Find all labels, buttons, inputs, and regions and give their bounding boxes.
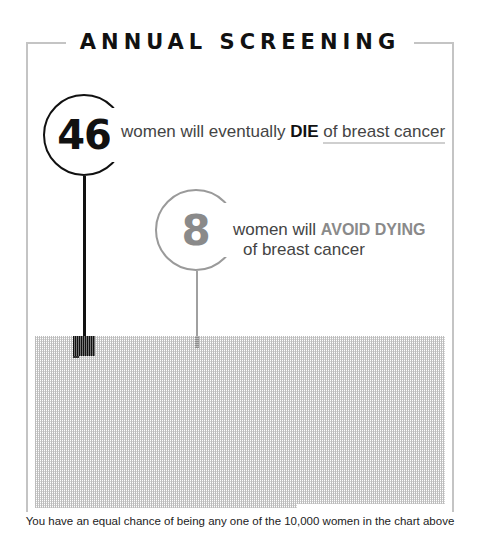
footer-caption: You have an equal chance of being any on… — [20, 512, 461, 530]
avoid-text-after: of breast cancer — [233, 240, 425, 260]
avoid-highlight-block — [195, 336, 199, 348]
avoid-text-before: women will — [233, 220, 321, 239]
die-highlight-block — [73, 336, 95, 356]
title-container: ANNUAL SCREENING — [0, 26, 480, 58]
women-dot-grid-last-row — [35, 504, 297, 508]
footer-container: You have an equal chance of being any on… — [0, 511, 480, 530]
avoid-count: 8 — [181, 206, 210, 255]
die-emphasis: DIE — [290, 122, 318, 141]
die-text-after: of breast cancer — [323, 122, 445, 144]
chart-title: ANNUAL SCREENING — [66, 26, 414, 58]
die-pointer-line — [83, 176, 86, 336]
die-label: women will eventually DIE of breast canc… — [121, 122, 445, 142]
die-highlight-block-tail — [73, 356, 79, 358]
die-text-before: women will eventually — [121, 122, 290, 141]
avoid-label: women will AVOID DYING of breast cancer — [233, 220, 425, 260]
women-dot-grid — [35, 336, 445, 504]
avoid-emphasis: AVOID DYING — [321, 221, 426, 238]
avoid-pointer-line — [196, 271, 198, 336]
die-count: 46 — [57, 112, 111, 158]
